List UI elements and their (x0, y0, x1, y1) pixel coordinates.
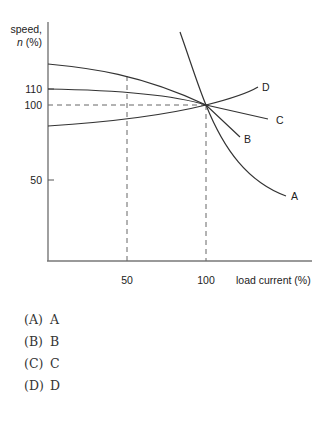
curve-label-B: B (244, 133, 251, 145)
curve-B (48, 89, 240, 137)
x-axis-label: load current (%) (236, 274, 311, 286)
option-value: A (50, 309, 59, 331)
option-key: (A) (24, 309, 50, 331)
answer-options: (A) A (B) B (C) C (D) D (24, 309, 60, 397)
option-key: (C) (24, 353, 50, 375)
curve-A (180, 32, 286, 196)
curve-label-D: D (262, 81, 270, 93)
y-axis-label-line1: speed, (10, 23, 42, 35)
curve-C (48, 64, 268, 119)
option-b[interactable]: (B) B (24, 331, 60, 353)
x-tick-label-50: 50 (121, 274, 133, 286)
curve-D (48, 87, 258, 126)
option-d[interactable]: (D) D (24, 375, 60, 397)
option-key: (B) (24, 331, 50, 353)
x-tick-label-100: 100 (197, 274, 215, 286)
curve-label-C: C (276, 114, 284, 126)
y-axis-label-line2: n (%) (17, 36, 42, 48)
option-c[interactable]: (C) C (24, 353, 60, 375)
y-tick-label-50: 50 (30, 174, 42, 186)
curve-label-A: A (291, 190, 298, 202)
speed-load-chart: speed, n (%) 110 100 50 50 100 load curr… (0, 0, 330, 290)
y-tick-label-110: 110 (25, 83, 42, 95)
option-value: D (50, 375, 60, 397)
option-key: (D) (24, 375, 50, 397)
option-value: C (50, 353, 60, 375)
y-tick-label-100: 100 (24, 99, 42, 111)
option-value: B (50, 331, 59, 353)
option-a[interactable]: (A) A (24, 309, 60, 331)
